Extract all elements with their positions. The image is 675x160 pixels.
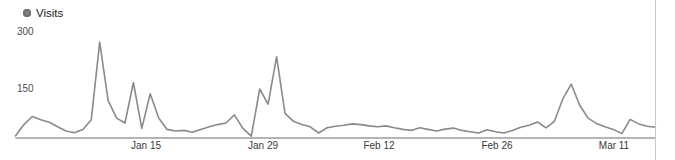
right-divider xyxy=(655,0,656,160)
x-axis-label-jan-15: Jan 15 xyxy=(131,140,161,151)
visits-chart-card: Visits 300 150 Jan 15 Jan 29 Feb 12 Feb … xyxy=(0,0,675,160)
visits-line xyxy=(16,42,656,136)
x-axis-label-jan-29: Jan 29 xyxy=(248,140,278,151)
line-chart xyxy=(0,0,675,160)
x-axis-label-feb-12: Feb 12 xyxy=(363,140,394,151)
x-axis-label-mar-11: Mar 11 xyxy=(599,140,629,151)
x-axis-label-feb-26: Feb 26 xyxy=(481,140,512,151)
